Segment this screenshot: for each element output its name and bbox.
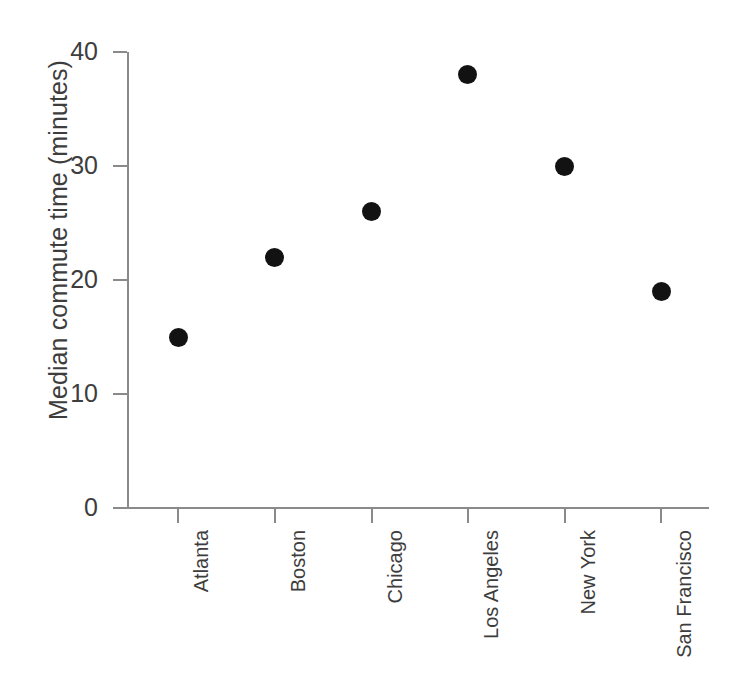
scatter-chart: Median commute time (minutes) 0 10 20 30… [0,0,744,685]
y-tick-label-30: 30 [18,153,98,178]
x-tick-label-los-angeles: Los Angeles [478,530,504,685]
x-tick-los-angeles [467,509,469,523]
data-point-atlanta [169,328,188,347]
data-point-los-angeles [458,65,477,84]
y-tick-20 [113,279,127,281]
x-tick-new-york [564,509,566,523]
data-point-san-francisco [652,282,671,301]
y-tick-label-10: 10 [18,381,98,406]
x-tick-label-new-york: New York [575,530,601,685]
y-tick-40 [113,51,127,53]
y-tick-label-40: 40 [18,39,98,64]
x-tick-atlanta [177,509,179,523]
y-axis-line [127,52,129,509]
x-tick-label-boston: Boston [285,530,311,685]
x-tick-label-atlanta: Atlanta [188,530,214,685]
x-tick-boston [274,509,276,523]
data-point-new-york [555,157,574,176]
x-tick-label-san-francisco: San Francisco [671,530,697,685]
y-tick-10 [113,393,127,395]
x-tick-san-francisco [660,509,662,523]
x-axis-line [127,507,709,509]
y-tick-0 [113,507,127,509]
y-tick-30 [113,165,127,167]
data-point-chicago [362,202,381,221]
y-tick-label-0: 0 [18,495,98,520]
x-tick-label-chicago: Chicago [382,530,408,685]
y-tick-label-20: 20 [18,267,98,292]
data-point-boston [265,248,284,267]
x-tick-chicago [371,509,373,523]
